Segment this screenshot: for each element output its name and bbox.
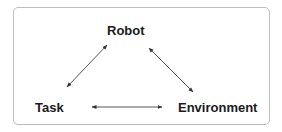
- edges-layer: [0, 0, 282, 132]
- edge-robot-task-arrow: [67, 45, 107, 87]
- edge-robot-environment-arrow: [149, 48, 193, 92]
